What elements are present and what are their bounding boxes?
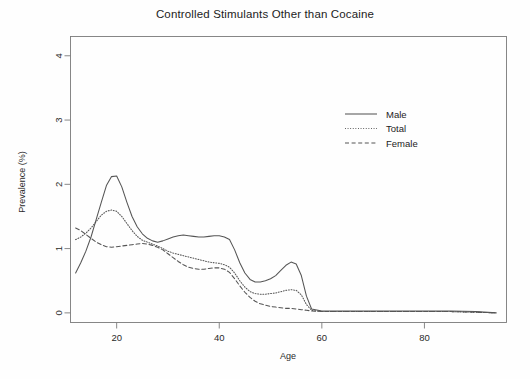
x-tick-label: 60 <box>317 332 328 343</box>
plot-frame <box>71 37 507 323</box>
x-tick-label: 80 <box>419 332 430 343</box>
x-tick-label: 20 <box>111 332 122 343</box>
axis-tick-labels: 0123420406080 <box>53 53 430 342</box>
legend-label-total: Total <box>386 123 406 134</box>
chart-page: Controlled Stimulants Other than Cocaine… <box>0 0 530 379</box>
y-axis-title: Prevalence (%) <box>17 151 27 213</box>
y-tick-label: 4 <box>53 53 64 58</box>
x-tick-label: 40 <box>214 332 225 343</box>
series-line-female <box>76 228 497 313</box>
series-line-total <box>76 210 497 313</box>
y-tick-label: 1 <box>53 246 64 251</box>
x-axis-title: Age <box>280 351 296 361</box>
chart-legend: MaleTotalFemale <box>345 109 418 149</box>
chart-plot-area: 0123420406080 Age Prevalence (%) MaleTot… <box>0 0 530 379</box>
axis-ticks <box>65 56 425 329</box>
legend-label-male: Male <box>386 109 407 120</box>
y-tick-label: 0 <box>53 310 64 315</box>
y-tick-label: 3 <box>53 117 64 122</box>
y-tick-label: 2 <box>53 182 64 187</box>
data-series-group <box>76 176 497 313</box>
legend-label-female: Female <box>386 138 418 149</box>
